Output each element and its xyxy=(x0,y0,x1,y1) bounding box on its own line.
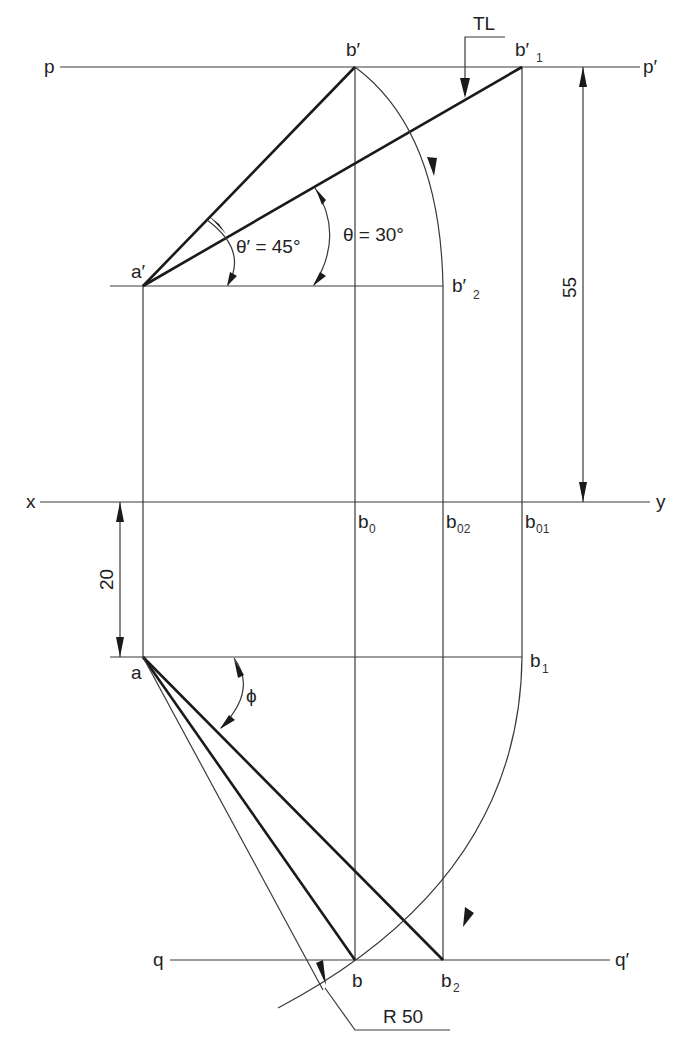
label-b-prime-1-sub: 1 xyxy=(536,51,543,65)
arc-b1-to-R50 xyxy=(278,657,522,1008)
label-b1: b xyxy=(530,650,541,671)
angle-arrowhead-phi-top-icon xyxy=(234,659,244,678)
label-y: y xyxy=(656,491,666,512)
label-p-prime: p′ xyxy=(643,56,658,77)
top-view-line-a-b2 xyxy=(143,657,443,960)
label-b1-sub: 1 xyxy=(542,662,549,676)
label-b-prime-2-sub: 2 xyxy=(473,288,480,302)
label-b2: b xyxy=(441,970,452,991)
label-q: q xyxy=(153,949,164,970)
label-b01-sub: 01 xyxy=(536,522,550,536)
angle-arrowhead-theta-prime-top-icon xyxy=(209,216,226,234)
label-radius: R 50 xyxy=(383,1006,423,1027)
label-b0-sub: 0 xyxy=(369,522,376,536)
label-a-prime: a′ xyxy=(131,261,146,282)
label-a: a xyxy=(131,662,142,683)
label-b02: b xyxy=(446,511,457,532)
label-theta: θ = 30° xyxy=(343,224,404,245)
angle-arrowhead-theta-prime-bottom-icon xyxy=(227,272,237,286)
label-b2-sub: 2 xyxy=(453,981,460,995)
label-b: b xyxy=(352,970,363,991)
tl-leader-line xyxy=(465,37,505,95)
label-q-prime: q′ xyxy=(615,949,630,970)
arc-b-prime-to-b-prime-2 xyxy=(355,67,443,286)
tl-arrowhead-icon xyxy=(460,78,470,98)
angle-arrowhead-theta-bottom-icon xyxy=(313,272,326,286)
dim-55-arrow-bottom-icon xyxy=(579,482,587,502)
label-tl: TL xyxy=(473,13,495,34)
angle-arrowhead-theta-top-icon xyxy=(316,189,326,205)
dim-55-arrow-top-icon xyxy=(579,67,587,87)
label-b02-sub: 02 xyxy=(457,522,471,536)
label-b0: b xyxy=(358,511,369,532)
angle-arrowhead-phi-bottom-icon xyxy=(220,715,235,729)
arc-arrowhead-lower-icon xyxy=(463,907,474,927)
dim-20-arrow-bottom-icon xyxy=(116,637,124,657)
label-dim-20: 20 xyxy=(96,569,117,590)
angle-arc-phi xyxy=(221,658,243,728)
label-theta-prime: θ′ = 45° xyxy=(236,236,301,257)
label-phi: ϕ xyxy=(246,685,257,706)
label-x: x xyxy=(26,491,36,512)
projection-diagram: p p′ b′ b′ 1 TL a′ θ′ = 45° θ = 30° b′ 2… xyxy=(0,0,691,1059)
label-b-prime: b′ xyxy=(346,39,361,60)
label-b-prime-2: b′ xyxy=(452,275,467,296)
label-b01: b xyxy=(525,511,536,532)
label-b-prime-1: b′ xyxy=(515,39,530,60)
true-length-line-a-prime-b-prime-1 xyxy=(143,67,522,286)
label-dim-55: 55 xyxy=(559,277,580,298)
label-p: p xyxy=(44,56,55,77)
arc-arrowhead-upper-icon xyxy=(427,157,437,176)
dim-20-arrow-top-icon xyxy=(116,502,124,522)
radius-leader-line xyxy=(143,657,323,990)
